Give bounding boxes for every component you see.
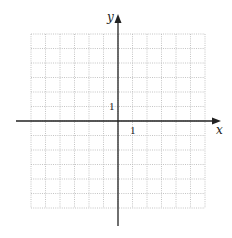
y-unit-label: 1: [109, 100, 115, 112]
y-axis-arrow-icon: [115, 14, 122, 23]
x-axis-label: x: [216, 123, 223, 137]
x-unit-label: 1: [130, 124, 136, 136]
y-axis-label: y: [106, 10, 114, 24]
coordinate-plane: x y 1 1: [0, 0, 232, 238]
